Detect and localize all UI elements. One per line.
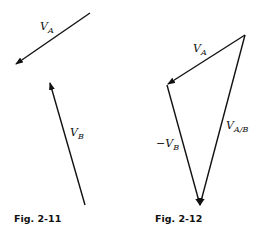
label-va-fig12: VA: [193, 42, 207, 57]
label-va-b-fig12: VA/B: [226, 119, 248, 134]
caption-fig-2-11: Fig. 2-11: [14, 213, 61, 224]
label-neg-vb-fig12: −VB: [156, 137, 179, 152]
caption-fig-2-12: Fig. 2-12: [155, 213, 202, 224]
vector-vb-arrow: [50, 83, 85, 205]
label-va-fig11: VA: [40, 20, 54, 35]
label-vb-fig11: VB: [70, 126, 84, 141]
fig-2-11: [16, 13, 90, 205]
